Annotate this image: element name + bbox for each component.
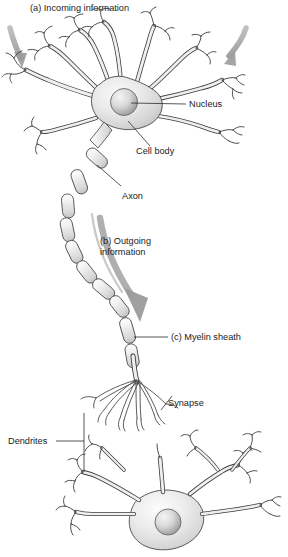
myelin-segment	[84, 146, 110, 171]
label-myelin-sheath: (c) Myelin sheath	[171, 332, 241, 342]
incoming-arrow-right	[224, 28, 246, 66]
caption-b-line1: (b) Outgoing	[100, 236, 151, 246]
caption-a-incoming-information: (a) Incoming information	[30, 3, 129, 13]
myelin-segment	[69, 168, 89, 196]
axon-terminals	[81, 356, 178, 431]
label-axon: Axon	[122, 191, 143, 201]
label-dendrites: Dendrites	[8, 436, 48, 446]
myelin-segment-labelled	[118, 316, 137, 344]
myelin-segment	[61, 193, 75, 218]
diagram-canvas: (a) Incoming information	[0, 0, 288, 557]
leader-axon	[97, 165, 121, 186]
nucleus-circle-lower	[155, 509, 181, 535]
receiving-neuron-lower	[56, 430, 281, 550]
label-nucleus: Nucleus	[189, 99, 223, 109]
leader-dendrites-bracket	[56, 413, 84, 472]
caption-b-line2: information	[100, 247, 145, 257]
neuron-diagram-figure: (a) Incoming information	[0, 0, 288, 557]
label-cell-body: Cell body	[136, 146, 175, 156]
myelin-segment	[59, 217, 76, 243]
nucleus-circle	[111, 89, 138, 116]
incoming-arrow-left	[10, 28, 27, 68]
label-synapse: Synapse	[168, 398, 204, 408]
